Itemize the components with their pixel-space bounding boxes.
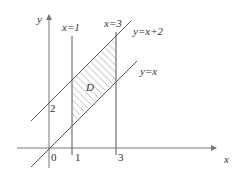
region-diagram: y x 0 1 3 2 x=1 x=3 y=x+2 y=x D [0, 0, 244, 179]
y-axis-label: y [36, 13, 42, 25]
x-axis-label: x [223, 153, 229, 165]
tick-label-x-3: 3 [118, 151, 124, 163]
label-x-eq-3: x=3 [103, 17, 122, 29]
label-x-eq-1: x=1 [61, 21, 80, 33]
label-y-eq-x: y=x [139, 65, 157, 77]
origin-label: 0 [51, 151, 57, 163]
tick-label-x-1: 1 [75, 151, 81, 163]
tick-label-y-2: 2 [50, 102, 56, 114]
region-label-d: D [85, 81, 94, 93]
region-d [72, 36, 116, 124]
label-y-eq-x-plus-2: y=x+2 [132, 25, 164, 37]
